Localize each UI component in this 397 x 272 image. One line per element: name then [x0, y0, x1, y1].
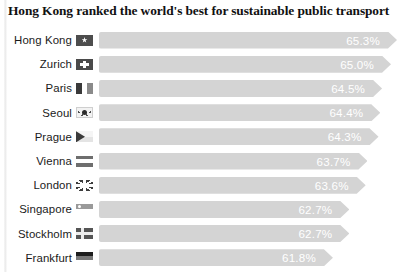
bar: 62.7%	[99, 225, 349, 242]
bar-row: Frankfurt61.8%	[0, 246, 397, 270]
flag-czechia-icon	[76, 131, 93, 142]
bar-row: Singapore62.7%	[0, 197, 397, 221]
bar-track: 62.7%	[99, 201, 397, 218]
chart-title: Hong Kong ranked the world's best for su…	[8, 3, 393, 19]
flag-united-kingdom-icon	[76, 180, 93, 191]
bar-list: Hong Kong65.3%Zurich65.0%Paris64.5%Seoul…	[0, 28, 397, 270]
bar: 63.7%	[99, 153, 367, 170]
bar-row-label: Seoul	[0, 107, 76, 119]
flag-sweden-icon	[76, 228, 93, 239]
bar-track: 65.3%	[99, 32, 397, 49]
flag-singapore-icon	[76, 204, 93, 215]
bar-track: 63.6%	[99, 177, 397, 194]
bar-value-label: 61.8%	[282, 251, 333, 264]
bar-row-label: Vienna	[0, 155, 76, 167]
bar-value-label: 64.3%	[328, 130, 379, 143]
bar: 64.4%	[99, 104, 380, 121]
flag-switzerland-icon	[76, 59, 93, 70]
bar-row-label: Hong Kong	[0, 34, 76, 46]
bar-row-label: Paris	[0, 82, 76, 94]
bar-value-label: 63.7%	[317, 155, 368, 168]
bar: 61.8%	[99, 249, 333, 266]
bar-row-label: London	[0, 179, 76, 191]
bar-value-label: 64.5%	[331, 82, 382, 95]
bar-row: Paris64.5%	[0, 76, 397, 100]
bar-track: 64.4%	[99, 104, 397, 121]
flag-france-icon	[76, 83, 93, 94]
bar-row-label: Stockholm	[0, 228, 76, 240]
bar-value-label: 63.6%	[315, 179, 366, 192]
bar-row: Prague64.3%	[0, 125, 397, 149]
bar: 65.0%	[99, 56, 391, 73]
flag-south-korea-icon	[76, 107, 93, 118]
bar-row: London63.6%	[0, 173, 397, 197]
bar-row: Hong Kong65.3%	[0, 28, 397, 52]
bar-value-label: 64.4%	[329, 106, 380, 119]
bar-row: Seoul64.4%	[0, 101, 397, 125]
bar: 65.3%	[99, 32, 397, 49]
bar: 63.6%	[99, 177, 366, 194]
bar-value-label: 65.0%	[340, 58, 391, 71]
flag-hong-kong-icon	[76, 35, 93, 46]
bar-row: Vienna63.7%	[0, 149, 397, 173]
bar-track: 61.8%	[99, 249, 397, 266]
bar-row: Stockholm62.7%	[0, 222, 397, 246]
bar-row-label: Singapore	[0, 203, 76, 215]
bar-track: 64.5%	[99, 80, 397, 97]
bar: 64.3%	[99, 128, 379, 145]
flag-austria-icon	[76, 156, 93, 167]
bar-track: 62.7%	[99, 225, 397, 242]
bar-value-label: 65.3%	[346, 34, 397, 47]
bar-value-label: 62.7%	[298, 227, 349, 240]
bar-row-label: Zurich	[0, 58, 76, 70]
bar-track: 65.0%	[99, 56, 397, 73]
bar-row: Zurich65.0%	[0, 52, 397, 76]
bar-row-label: Prague	[0, 131, 76, 143]
bar: 62.7%	[99, 201, 349, 218]
bar-track: 64.3%	[99, 128, 397, 145]
bar-value-label: 62.7%	[298, 203, 349, 216]
bar: 64.5%	[99, 80, 382, 97]
flag-germany-icon	[76, 252, 93, 263]
bar-row-label: Frankfurt	[0, 252, 76, 264]
bar-track: 63.7%	[99, 153, 397, 170]
chart-container: Hong Kong ranked the world's best for su…	[0, 0, 397, 272]
